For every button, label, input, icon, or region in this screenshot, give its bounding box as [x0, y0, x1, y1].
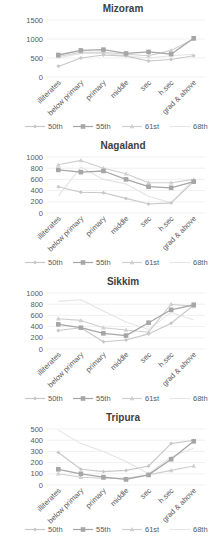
- y-tick-label: 0: [39, 73, 43, 82]
- x-category-label: primary: [84, 350, 108, 374]
- legend-label: 55th: [96, 525, 111, 534]
- legend-55th-marker: [81, 527, 86, 532]
- legend-item-55th: 55th: [73, 525, 111, 534]
- x-axis: illiteratesbelow primaryprimarymiddlesec…: [35, 350, 198, 390]
- legend-item-68th: 68th: [170, 258, 208, 267]
- series-55th: [56, 168, 196, 191]
- legend-55th-marker: [81, 260, 86, 265]
- series-50th-marker: [56, 185, 60, 189]
- y-tick-label: 0: [39, 209, 43, 218]
- x-category-label: sec: [138, 486, 153, 501]
- legend-label: 61st: [145, 258, 160, 267]
- legend-label: 61st: [145, 394, 160, 403]
- legend: 50th55th61st68th: [25, 525, 208, 534]
- series-50th-marker: [101, 470, 105, 474]
- y-axis: 02004006008001000: [26, 289, 205, 354]
- series-50th-marker: [101, 191, 105, 195]
- series-55th-marker: [101, 331, 106, 336]
- legend: 50th55th61st68th: [25, 258, 208, 267]
- series-55th-marker: [146, 184, 151, 189]
- x-axis: illiteratesbelow primaryprimarymiddlesec…: [35, 78, 198, 118]
- series-61st-marker: [191, 464, 196, 468]
- chart-sikkim: Sikkim02004006008001000illiteratesbelow …: [0, 273, 223, 409]
- y-tick-label: 400: [30, 436, 43, 445]
- x-category-label: h.sec: [157, 486, 176, 505]
- y-tick-label: 1000: [26, 289, 43, 298]
- series-group: [56, 36, 196, 68]
- legend-item-61st: 61st: [122, 394, 160, 403]
- y-tick-label: 200: [30, 333, 43, 342]
- chart-nagaland: Nagaland02004006008001000illiteratesbelo…: [0, 137, 223, 273]
- legend-label: 50th: [48, 525, 63, 534]
- series-55th-marker: [191, 439, 196, 444]
- y-tick-label: 0: [39, 345, 43, 354]
- series-55th-marker: [169, 308, 174, 313]
- series-55th-marker: [146, 473, 151, 478]
- legend-50th-marker: [33, 397, 37, 401]
- x-category-label: middle: [108, 350, 130, 372]
- x-category-label: primary: [84, 486, 108, 510]
- legend-55th-marker: [81, 124, 86, 129]
- x-category-label: middle: [108, 214, 130, 236]
- legend-item-68th: 68th: [170, 525, 208, 534]
- series-55th-marker: [146, 320, 151, 325]
- series-55th-marker: [191, 302, 196, 307]
- series-group: [56, 300, 196, 344]
- x-category-label: sec: [138, 78, 153, 93]
- legend-50th-marker: [33, 125, 37, 129]
- y-axis: 0100200300400500: [30, 425, 205, 490]
- series-55th-marker: [79, 472, 84, 477]
- legend-50th-marker: [33, 528, 37, 532]
- legend-item-68th: 68th: [170, 122, 208, 131]
- legend-item-50th: 50th: [25, 525, 63, 534]
- legend-55th-marker: [81, 396, 86, 401]
- series-55th-marker: [79, 325, 84, 330]
- series-55th-marker: [101, 475, 106, 480]
- x-category-label: sec: [138, 214, 153, 229]
- legend-label: 55th: [96, 258, 111, 267]
- series-55th-marker: [169, 186, 174, 191]
- legend-label: 50th: [48, 394, 63, 403]
- legend-item-61st: 61st: [122, 525, 160, 534]
- y-tick-label: 600: [30, 175, 43, 184]
- series-55th-marker: [191, 179, 196, 184]
- legend-label: 68th: [193, 525, 208, 534]
- series-line: [58, 182, 193, 204]
- series-55th-marker: [191, 36, 196, 41]
- y-tick-label: 1000: [26, 153, 43, 162]
- series-55th-marker: [79, 48, 84, 53]
- y-tick-label: 500: [30, 425, 43, 434]
- y-tick-label: 300: [30, 447, 43, 456]
- y-tick-label: 1000: [26, 35, 43, 44]
- chart-title: Sikkim: [107, 276, 139, 287]
- legend-item-50th: 50th: [25, 394, 63, 403]
- legend-item-55th: 55th: [73, 122, 111, 131]
- legend-label: 68th: [193, 258, 208, 267]
- y-tick-label: 600: [30, 311, 43, 320]
- chart-title: Nagaland: [100, 140, 145, 151]
- y-tick-label: 200: [30, 197, 43, 206]
- legend-item-55th: 55th: [73, 394, 111, 403]
- series-55th: [56, 439, 196, 482]
- series-55th-marker: [79, 170, 84, 175]
- legend-label: 55th: [96, 394, 111, 403]
- series-50th-marker: [56, 329, 60, 333]
- legend-label: 50th: [48, 258, 63, 267]
- y-tick-label: 1500: [26, 16, 43, 25]
- y-tick-label: 100: [30, 469, 43, 478]
- y-tick-label: 800: [30, 300, 43, 309]
- x-category-label: sec: [138, 350, 153, 365]
- legend-item-50th: 50th: [25, 122, 63, 131]
- series-55th-marker: [56, 53, 61, 58]
- chart-tripura: Tripura0100200300400500illiteratesbelow …: [0, 409, 223, 557]
- x-category-label: h.sec: [157, 214, 176, 233]
- series-50th-marker: [79, 56, 83, 60]
- series-55th-marker: [56, 168, 61, 173]
- series-50th-marker: [147, 202, 151, 206]
- legend-label: 55th: [96, 122, 111, 131]
- y-tick-label: 0: [39, 481, 43, 490]
- series-55th-marker: [169, 52, 174, 57]
- legend-label: 61st: [145, 525, 160, 534]
- series-55th-marker: [56, 467, 61, 472]
- series-55th-marker: [146, 50, 151, 55]
